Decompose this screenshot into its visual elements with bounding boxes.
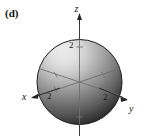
z-tick-label-2: 2 xyxy=(69,40,74,50)
x-axis-arrowhead-icon xyxy=(31,94,39,99)
figure-panel: (d) xyxy=(0,0,144,140)
x-axis-label: x xyxy=(21,91,27,102)
y-tick-label-2: 2 xyxy=(103,92,108,102)
sphere-plot: z x y 2 2 2 xyxy=(0,0,144,140)
x-tick-label-2: 2 xyxy=(47,91,52,101)
z-axis-arrowhead-icon xyxy=(77,13,82,20)
y-axis-label: y xyxy=(128,103,134,114)
z-axis-label: z xyxy=(74,3,79,14)
